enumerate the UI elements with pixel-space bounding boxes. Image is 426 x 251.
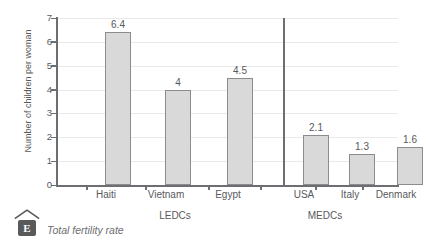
bar-value-usa: 2.1 — [309, 123, 323, 133]
roof-chevron-icon — [14, 209, 40, 219]
bar-value-haiti: 6.4 — [111, 20, 125, 30]
bar-usa: 2.1 — [303, 135, 329, 185]
x-category-label-denmark: Denmark — [367, 190, 425, 200]
x-category-label-haiti: Haiti — [78, 190, 134, 200]
bar-egypt: 4.5 — [227, 78, 253, 185]
bar-italy: 1.3 — [349, 154, 375, 185]
bar-value-egypt: 4.5 — [233, 66, 247, 76]
y-tick-label-6: 6 — [12, 37, 52, 47]
figure-footer: E Total fertility rate — [14, 209, 124, 239]
fertility-rate-bar-chart: Number of children per woman 6.4 4 4.5 2… — [0, 0, 426, 251]
y-tick-label-1: 1 — [12, 156, 52, 166]
gridline — [57, 18, 398, 19]
figure-caption: Total fertility rate — [47, 224, 124, 236]
x-axis-line — [56, 185, 399, 187]
x-tick-mark — [260, 186, 262, 190]
x-category-label-egypt: Egypt — [200, 190, 256, 200]
exam-icon-letter: E — [18, 220, 36, 236]
y-tick-label-5: 5 — [12, 61, 52, 71]
y-tick-label-3: 3 — [12, 108, 52, 118]
bar-denmark: 1.6 — [397, 147, 423, 185]
y-tick-label-7: 7 — [12, 13, 52, 23]
group-separator-line — [283, 18, 285, 185]
plot-area: 6.4 4 4.5 2.1 1.3 1.6 — [57, 18, 398, 185]
bar-value-denmark: 1.6 — [403, 135, 417, 145]
bar-value-vietnam: 4 — [175, 78, 181, 88]
bar-haiti: 6.4 — [105, 32, 131, 185]
bar-value-italy: 1.3 — [355, 142, 369, 152]
y-tick-label-2: 2 — [12, 132, 52, 142]
group-label-medcs: MEDCs — [290, 211, 360, 221]
group-label-ledcs: LEDCs — [140, 211, 210, 221]
x-category-label-vietnam: Vietnam — [138, 190, 194, 200]
bar-vietnam: 4 — [165, 90, 191, 185]
y-tick-label-0: 0 — [12, 180, 52, 190]
exam-tip-icon: E — [14, 209, 40, 239]
y-tick-label-4: 4 — [12, 85, 52, 95]
